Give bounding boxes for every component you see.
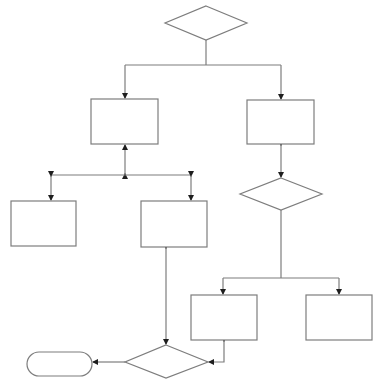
process-bottom-left[interactable] — [191, 295, 257, 340]
terminal-end[interactable] — [27, 352, 92, 376]
decision-bottom[interactable] — [125, 345, 208, 378]
process-left[interactable] — [91, 99, 158, 144]
flowchart-svg — [0, 0, 381, 388]
decision-right[interactable] — [240, 178, 322, 210]
flowchart-canvas — [0, 0, 381, 388]
process-right[interactable] — [247, 100, 314, 144]
process-bottom-right[interactable] — [306, 295, 372, 340]
process-far-left[interactable] — [11, 201, 76, 246]
decision-top[interactable] — [165, 6, 247, 40]
edge-bottom-left-to-decision — [209, 341, 224, 362]
process-middle[interactable] — [141, 201, 207, 247]
